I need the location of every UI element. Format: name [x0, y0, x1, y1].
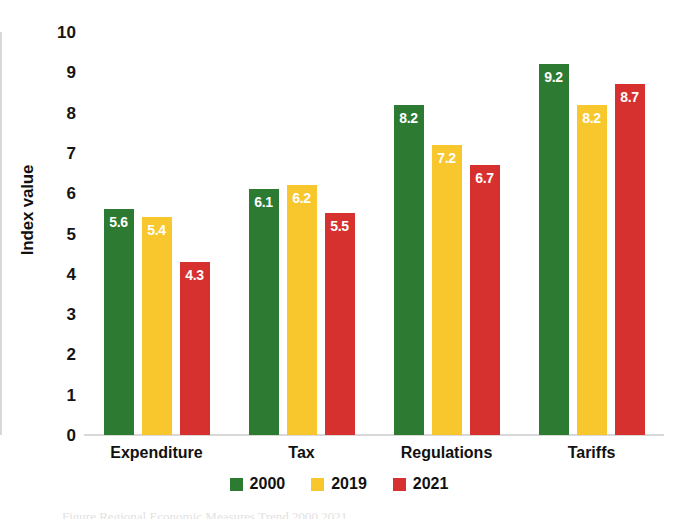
y-tick-label: 1: [42, 387, 76, 404]
legend-item-2019[interactable]: 2019: [311, 476, 367, 492]
bar-regulations-2000[interactable]: 8.2: [394, 105, 424, 435]
bar-group: 8.27.26.7Regulations: [394, 32, 500, 435]
y-tick-label: 7: [42, 145, 76, 162]
y-axis-tick-labels: 109876543210: [36, 0, 76, 467]
y-tick-label: 4: [42, 266, 76, 283]
legend-label: 2019: [331, 476, 367, 492]
legend-item-2021[interactable]: 2021: [393, 476, 449, 492]
bar-tax-2019[interactable]: 6.2: [287, 185, 317, 435]
bar-expenditure-2000[interactable]: 5.6: [104, 209, 134, 435]
bar-tariffs-2021[interactable]: 8.7: [615, 84, 645, 435]
bar-expenditure-2019[interactable]: 5.4: [142, 217, 172, 435]
legend-swatch-icon: [230, 478, 243, 491]
bar-value-label: 5.5: [325, 218, 355, 234]
x-axis-category-label: Expenditure: [104, 444, 210, 462]
y-tick-label: 10: [42, 24, 76, 41]
bar-group-bars: 8.27.26.7: [394, 32, 500, 435]
y-tick-label: 0: [42, 427, 76, 444]
bar-group: 9.28.28.7Tariffs: [539, 32, 645, 435]
y-tick-label: 9: [42, 64, 76, 81]
plot-area: 5.65.44.3Expenditure6.16.25.5Tax8.27.26.…: [84, 32, 664, 435]
bar-value-label: 5.6: [104, 214, 134, 230]
bar-value-label: 9.2: [539, 69, 569, 85]
grouped-bar-chart: Index value 109876543210 5.65.44.3Expend…: [0, 0, 678, 519]
figure-caption-partial: Figure Regional Economic Measures Trend …: [62, 509, 618, 519]
chart-legend: 200020192021: [0, 476, 678, 492]
bar-expenditure-2021[interactable]: 4.3: [180, 262, 210, 435]
bar-group: 5.65.44.3Expenditure: [104, 32, 210, 435]
bar-tariffs-2000[interactable]: 9.2: [539, 64, 569, 435]
bar-regulations-2021[interactable]: 6.7: [470, 165, 500, 435]
legend-label: 2000: [250, 476, 286, 492]
y-tick-label: 5: [42, 226, 76, 243]
legend-swatch-icon: [311, 478, 324, 491]
bar-value-label: 5.4: [142, 222, 172, 238]
bar-tariffs-2019[interactable]: 8.2: [577, 105, 607, 435]
bar-value-label: 6.7: [470, 170, 500, 186]
bar-tax-2021[interactable]: 5.5: [325, 213, 355, 435]
bar-group-bars: 5.65.44.3: [104, 32, 210, 435]
bar-group-bars: 6.16.25.5: [249, 32, 355, 435]
legend-item-2000[interactable]: 2000: [230, 476, 286, 492]
bar-group: 6.16.25.5Tax: [249, 32, 355, 435]
y-tick-label: 8: [42, 105, 76, 122]
y-tick-label: 2: [42, 346, 76, 363]
bar-group-bars: 9.28.28.7: [539, 32, 645, 435]
bar-value-label: 4.3: [180, 267, 210, 283]
x-axis-category-label: Tariffs: [539, 444, 645, 462]
x-axis-category-label: Regulations: [394, 444, 500, 462]
bar-value-label: 6.2: [287, 190, 317, 206]
bar-value-label: 8.2: [394, 110, 424, 126]
bar-value-label: 8.2: [577, 110, 607, 126]
bar-regulations-2019[interactable]: 7.2: [432, 145, 462, 435]
legend-label: 2021: [413, 476, 449, 492]
legend-swatch-icon: [393, 478, 406, 491]
x-axis-category-label: Tax: [249, 444, 355, 462]
bar-value-label: 6.1: [249, 194, 279, 210]
y-tick-label: 6: [42, 185, 76, 202]
bar-value-label: 8.7: [615, 89, 645, 105]
bar-value-label: 7.2: [432, 150, 462, 166]
y-tick-label: 3: [42, 306, 76, 323]
y-axis-line: [0, 32, 2, 435]
y-axis-title: Index value: [18, 120, 38, 300]
bar-tax-2000[interactable]: 6.1: [249, 189, 279, 435]
